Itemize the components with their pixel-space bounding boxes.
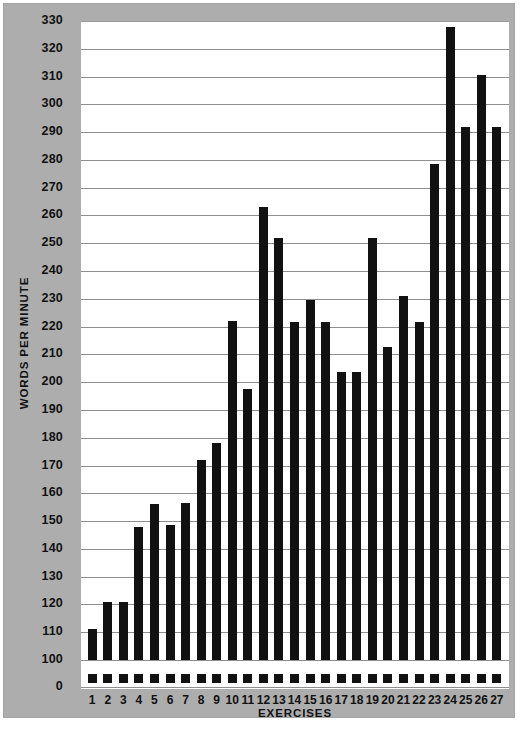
- y-axis-zero-label: 0: [0, 679, 63, 693]
- bar-stub: [228, 674, 237, 683]
- bar: [166, 525, 175, 660]
- bar: [150, 504, 159, 660]
- bars-stub-band: [81, 666, 509, 689]
- x-axis-tick-label: 1: [89, 693, 96, 707]
- bar-stub: [88, 674, 97, 683]
- y-axis-tick-label: 170: [0, 458, 63, 472]
- bar-stub: [446, 674, 455, 683]
- bar-stub: [415, 674, 424, 683]
- bar: [212, 443, 221, 660]
- bar: [337, 372, 346, 660]
- bar-stub: [337, 674, 346, 683]
- bar: [352, 372, 361, 660]
- bar: [415, 322, 424, 660]
- y-axis-tick-label: 290: [0, 124, 63, 138]
- x-axis-tick-label: 10: [226, 693, 239, 707]
- x-axis-tick-label: 9: [213, 693, 220, 707]
- x-axis-tick-label: 2: [104, 693, 111, 707]
- bar-stub: [352, 674, 361, 683]
- bar-stub: [368, 674, 377, 683]
- y-axis-tick-label: 110: [0, 624, 63, 638]
- bar: [274, 238, 283, 660]
- baseline: [81, 687, 509, 688]
- bar-stub: [119, 674, 128, 683]
- bar: [134, 527, 143, 660]
- x-axis-tick-label: 26: [475, 693, 488, 707]
- bar: [306, 300, 315, 660]
- y-axis-tick-label: 120: [0, 596, 63, 610]
- x-axis-tick-label: 24: [443, 693, 456, 707]
- bar-stub: [150, 674, 159, 683]
- y-axis-tick-label: 330: [0, 13, 63, 27]
- bar-stub: [321, 674, 330, 683]
- x-axis-tick-label: 11: [241, 693, 254, 707]
- y-axis-tick-label: 160: [0, 485, 63, 499]
- y-axis-tick-label: 140: [0, 541, 63, 555]
- y-axis-tick-label: 300: [0, 96, 63, 110]
- y-axis-tick-label: 200: [0, 374, 63, 388]
- x-axis-tick-label: 6: [167, 693, 174, 707]
- x-axis-tick-label: 18: [350, 693, 363, 707]
- x-axis-tick-label: 22: [412, 693, 425, 707]
- bar: [321, 322, 330, 660]
- bar: [399, 296, 408, 660]
- y-axis-tick-label: 100: [0, 652, 63, 666]
- bar-stub: [290, 674, 299, 683]
- y-axis-tick-label: 270: [0, 180, 63, 194]
- plot-area: [81, 21, 509, 689]
- x-axis-tick-label: 4: [136, 693, 143, 707]
- bar-stub: [399, 674, 408, 683]
- x-axis-tick-label: 19: [366, 693, 379, 707]
- x-axis-tick-label: 17: [335, 693, 348, 707]
- y-axis-tick-label: 250: [0, 235, 63, 249]
- bar-stub: [430, 674, 439, 683]
- y-axis-tick-label: 240: [0, 263, 63, 277]
- x-axis-tick-label: 23: [428, 693, 441, 707]
- bar-stub: [134, 674, 143, 683]
- x-axis-tick-label: 21: [397, 693, 410, 707]
- y-axis-tick-label: 210: [0, 346, 63, 360]
- bar-stub: [274, 674, 283, 683]
- bar: [492, 127, 501, 660]
- y-axis-tick-label: 180: [0, 430, 63, 444]
- x-axis-tick-label: 13: [272, 693, 285, 707]
- y-axis-tick-label: 230: [0, 291, 63, 305]
- x-axis-tick-label: 27: [490, 693, 503, 707]
- x-axis-tick-label: 15: [303, 693, 316, 707]
- y-axis-tick-label: 220: [0, 319, 63, 333]
- bar-stub: [259, 674, 268, 683]
- y-axis-tick-label: 320: [0, 41, 63, 55]
- bar: [228, 321, 237, 660]
- x-axis-tick-label: 14: [288, 693, 301, 707]
- bar-stub: [383, 674, 392, 683]
- bar: [477, 75, 486, 660]
- y-axis-tick-label: 190: [0, 402, 63, 416]
- y-axis-tick-label: 130: [0, 569, 63, 583]
- y-axis-tick-label: 260: [0, 207, 63, 221]
- x-axis-tick-label: 16: [319, 693, 332, 707]
- bar-stub: [212, 674, 221, 683]
- bar-stub: [103, 674, 112, 683]
- x-axis-tick-label: 5: [151, 693, 158, 707]
- x-axis-tick-label: 3: [120, 693, 127, 707]
- bar: [461, 127, 470, 660]
- bar: [119, 602, 128, 660]
- bar: [383, 347, 392, 660]
- bar: [197, 460, 206, 660]
- bar: [243, 389, 252, 660]
- bar-stub: [243, 674, 252, 683]
- bar: [181, 503, 190, 660]
- chart-figure: WORDS PER MINUTE EXERCISES 3303203103002…: [0, 0, 528, 734]
- bar: [88, 629, 97, 660]
- bar-stub: [477, 674, 486, 683]
- x-axis-tick-label: 20: [381, 693, 394, 707]
- bar: [103, 602, 112, 660]
- y-axis-tick-label: 310: [0, 69, 63, 83]
- bar: [368, 238, 377, 660]
- chart-panel: WORDS PER MINUTE EXERCISES 3303203103002…: [3, 3, 515, 718]
- y-axis-tick-label: 150: [0, 513, 63, 527]
- bar: [290, 322, 299, 660]
- x-axis-tick-label: 25: [459, 693, 472, 707]
- y-axis-tick-label: 280: [0, 152, 63, 166]
- bar-stub: [166, 674, 175, 683]
